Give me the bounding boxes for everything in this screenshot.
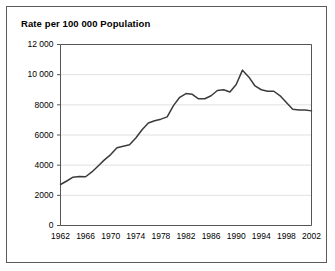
y-axis-tick-label: 10 000 <box>28 69 54 79</box>
chart-figure: Rate per 100 000 Population 12 00010 000… <box>0 0 335 271</box>
y-axis-tick-label: 2000 <box>35 190 54 200</box>
x-axis-tick-label: 1974 <box>126 231 145 241</box>
gridlines <box>61 45 312 196</box>
x-axis-tick-label: 1982 <box>177 231 196 241</box>
x-axis-tick-label: 2002 <box>302 231 321 241</box>
x-axis-tick-label: 1994 <box>252 231 271 241</box>
x-axis-tick-label: 1998 <box>277 231 296 241</box>
x-axis-tick-label: 1962 <box>51 231 70 241</box>
y-axis-tick-label: 8000 <box>35 100 54 110</box>
x-axis-tick-label: 1978 <box>151 231 170 241</box>
line-chart: 12 00010 00080006000400020000 1962196619… <box>0 0 335 271</box>
y-axis-tick-labels: 12 00010 00080006000400020000 <box>28 39 54 230</box>
x-axis-tick-label: 1970 <box>101 231 120 241</box>
data-series-line <box>61 70 312 184</box>
x-axis-tick-label: 1986 <box>202 231 221 241</box>
x-axis-tick-label: 1990 <box>227 231 246 241</box>
x-axis-tick-labels: 1962196619701974197819821986199019941998… <box>51 231 321 241</box>
plot-area: 12 00010 00080006000400020000 1962196619… <box>0 0 335 271</box>
y-axis-tick-label: 12 000 <box>28 39 54 49</box>
y-axis-tick-label: 6000 <box>35 130 54 140</box>
y-axis-tick-label: 4000 <box>35 160 54 170</box>
x-axis-tick-label: 1966 <box>76 231 95 241</box>
y-axis-tick-label: 0 <box>49 220 54 230</box>
